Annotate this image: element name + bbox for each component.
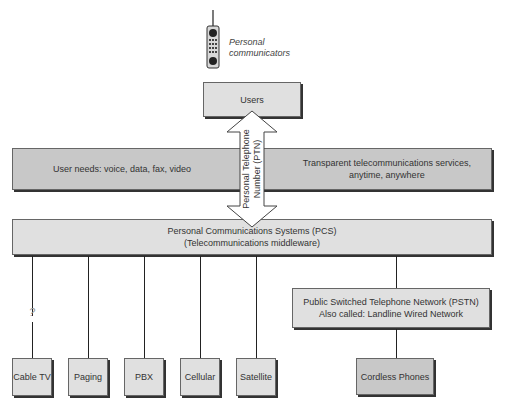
- connector-pstn: [396, 256, 397, 288]
- network-label: Cable TV: [13, 371, 50, 383]
- connector-cellular: [200, 256, 201, 358]
- network-box-cellular: Cellular: [180, 358, 220, 396]
- network-label: Cellular: [185, 371, 216, 383]
- network-box-paging: Paging: [68, 358, 108, 396]
- connector-cordless: [396, 329, 397, 358]
- connector-satellite: [256, 256, 257, 358]
- unknown-link-mark: ?: [29, 306, 35, 318]
- user-needs-text: User needs: voice, data, fax, video: [53, 163, 191, 175]
- users-label: Users: [240, 94, 264, 106]
- transparent-services-line1: Transparent telecommunications services,: [303, 157, 471, 169]
- connector-paging: [88, 256, 89, 358]
- transparent-services-text: Transparent telecommunications services,…: [263, 157, 471, 181]
- cordless-label: Cordless Phones: [361, 371, 430, 383]
- pstn-box: Public Switched Telephone Network (PSTN)…: [292, 288, 490, 328]
- network-label: Paging: [74, 371, 102, 383]
- ptn-label-line1: Personal Telephone: [241, 129, 252, 208]
- cell-phone-icon: [206, 10, 220, 70]
- pstn-line2: Also called: Landline Wired Network: [319, 308, 463, 320]
- ptn-label-line2: Number (PTN): [252, 129, 263, 208]
- network-box-pbx: PBX: [124, 358, 164, 396]
- pcs-line2: (Telecommunications middleware): [184, 237, 320, 249]
- device-caption-line2: communicators: [229, 48, 290, 59]
- device-caption: Personal communicators: [229, 37, 290, 59]
- connector-cable-tv-lower: [32, 322, 33, 358]
- network-label: Satellite: [240, 371, 272, 383]
- network-label: PBX: [135, 371, 153, 383]
- cordless-phones-box: Cordless Phones: [356, 358, 434, 395]
- pstn-line1: Public Switched Telephone Network (PSTN): [303, 296, 478, 308]
- device-caption-line1: Personal: [229, 37, 290, 48]
- transparent-services-line2: anytime, anywhere: [303, 169, 471, 181]
- connector-pbx: [144, 256, 145, 358]
- network-box-cable-tv: Cable TV: [12, 358, 52, 396]
- network-box-satellite: Satellite: [236, 358, 276, 396]
